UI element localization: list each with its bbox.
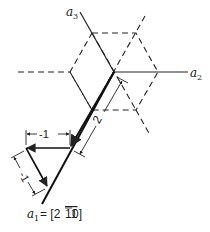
a3-label: a 3 <box>66 5 78 21</box>
a2-label: a 2 <box>190 66 202 82</box>
svg-text:= [2: = [2 <box>40 207 61 221</box>
dimension-horizontal-label: -1 <box>39 128 49 140</box>
dimension-diagonal-label: -1 <box>17 170 32 184</box>
hexagonal-axes-diagram: 2 -1 -1 a 3 a 2 a 1 = [2 11 0] <box>0 0 210 232</box>
svg-text:0]: 0] <box>72 207 82 221</box>
svg-text:1: 1 <box>34 214 39 223</box>
dimension-2 <box>74 77 128 157</box>
a1-vector-arrow <box>71 72 114 146</box>
svg-text:3: 3 <box>73 12 78 21</box>
dashed-lattice-lines <box>18 16 150 135</box>
a3-axis <box>80 12 114 72</box>
svg-text:2: 2 <box>197 73 202 82</box>
diagonal-vector-arrow <box>26 148 47 186</box>
a1-label: a 1 = [2 11 0] <box>27 207 82 223</box>
dimension-2-label: 2 <box>89 113 105 126</box>
